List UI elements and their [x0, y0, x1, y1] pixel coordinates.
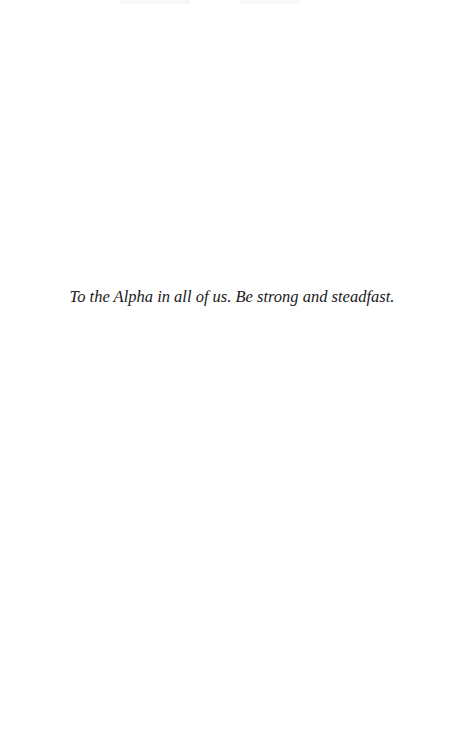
scan-artifact	[120, 0, 190, 4]
scan-artifact	[240, 0, 300, 4]
book-page: To the Alpha in all of us. Be strong and…	[0, 0, 464, 744]
dedication-text: To the Alpha in all of us. Be strong and…	[0, 287, 464, 307]
